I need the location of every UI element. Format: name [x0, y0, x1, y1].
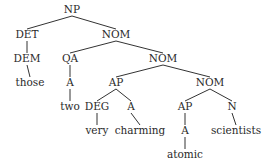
word-scientists: scientists — [211, 124, 261, 136]
node-a-3: A — [180, 124, 189, 136]
node-a-1: A — [65, 76, 74, 88]
tree-labels: NP DET NOM DEM QA NOM those A AP NOM two… — [14, 3, 262, 160]
node-qa: QA — [62, 52, 79, 64]
node-n: N — [227, 100, 236, 112]
word-atomic: atomic — [167, 148, 203, 160]
node-ap-2: AP — [177, 100, 193, 112]
syntax-tree-diagram: NP DET NOM DEM QA NOM those A AP NOM two… — [0, 0, 267, 165]
node-ap-1: AP — [108, 76, 124, 88]
node-nom-2: NOM — [149, 52, 178, 64]
node-a-2: A — [126, 100, 135, 112]
node-nom-3: NOM — [196, 76, 225, 88]
word-two: two — [60, 100, 80, 112]
node-det: DET — [15, 28, 38, 40]
word-those: those — [16, 76, 45, 88]
node-nom-1: NOM — [102, 28, 131, 40]
node-np: NP — [64, 3, 80, 15]
word-very: very — [84, 124, 108, 136]
node-deg: DEG — [85, 100, 109, 112]
word-charming: charming — [115, 124, 166, 136]
node-dem: DEM — [14, 52, 41, 64]
